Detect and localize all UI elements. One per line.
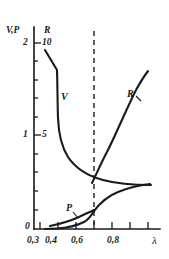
figure-container: V,P R λ 2 10 1 5 0 0,3 0,4 0,6 0,8 V R P bbox=[0, 0, 169, 259]
curve-p bbox=[45, 184, 150, 229]
curve-label-p: P bbox=[66, 203, 72, 213]
y-axis-right-label: R bbox=[44, 26, 50, 36]
curve-v bbox=[45, 50, 151, 185]
curve-r bbox=[92, 71, 148, 183]
p-label-leader bbox=[73, 212, 78, 218]
r-label-leader bbox=[136, 96, 141, 101]
x-tick-0-6: 0,6 bbox=[71, 236, 83, 246]
x-axis-label: λ bbox=[152, 235, 157, 246]
y-axis-ticks bbox=[34, 43, 41, 210]
y-tick-left-1: 1 bbox=[23, 130, 28, 140]
x-tick-0-4: 0,4 bbox=[45, 236, 57, 246]
origin-label: 0 bbox=[25, 222, 30, 232]
y-tick-right-5: 5 bbox=[42, 130, 47, 140]
y-tick-left-2: 2 bbox=[23, 38, 28, 48]
x-tick-0-3: 0,3 bbox=[27, 236, 39, 246]
y-tick-right-10: 10 bbox=[42, 38, 52, 48]
x-tick-0-8: 0,8 bbox=[107, 236, 119, 246]
curve-label-r: R bbox=[127, 89, 134, 99]
curve-label-v: V bbox=[61, 92, 68, 102]
y-axis-left-label: V,P bbox=[6, 26, 19, 36]
